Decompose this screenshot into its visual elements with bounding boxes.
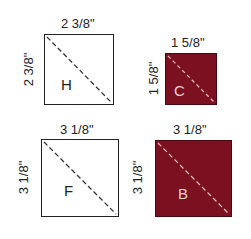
piece-h-square: H: [44, 34, 114, 105]
piece-c-side-dimension: 1 5/8": [147, 62, 160, 96]
piece-h-letter: H: [61, 77, 72, 92]
piece-f-side-dimension: 3 1/8": [17, 161, 30, 195]
piece-h-side-dimension: 2 3/8": [22, 53, 35, 87]
piece-c-square: C: [165, 53, 217, 105]
piece-f-square: F: [41, 139, 119, 217]
piece-c-letter: C: [174, 83, 185, 98]
piece-c-top-dimension: 1 5/8": [171, 36, 205, 49]
piece-b-side-dimension: 3 1/8": [131, 161, 144, 195]
piece-f-top-dimension: 3 1/8": [60, 123, 94, 136]
piece-b-letter: B: [178, 186, 188, 201]
piece-f-letter: F: [64, 183, 73, 198]
piece-h-top-dimension: 2 3/8": [61, 17, 95, 30]
piece-b-square: B: [155, 140, 232, 217]
piece-b-top-dimension: 3 1/8": [173, 123, 207, 136]
